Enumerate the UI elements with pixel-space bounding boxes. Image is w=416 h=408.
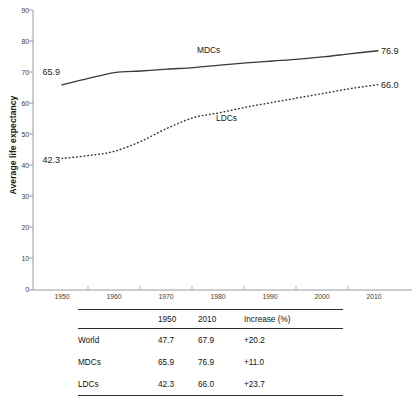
chart-plot-svg — [0, 0, 416, 305]
summary-table: 1950 2010 Increase (%) World 47.7 67.9 +… — [78, 309, 343, 396]
row-label-world: World — [78, 329, 158, 352]
header-increase: Increase (%) — [244, 310, 343, 329]
table-header-row: 1950 2010 Increase (%) — [78, 310, 343, 329]
row-world-1950: 47.7 — [158, 329, 198, 352]
row-label-mdcs: MDCs — [78, 351, 158, 373]
row-mdcs-2010: 76.9 — [198, 351, 244, 373]
row-ldcs-2010: 66.0 — [198, 373, 244, 396]
row-ldcs-increase: +23.7 — [244, 373, 343, 396]
table-row: MDCs 65.9 76.9 +11.0 — [78, 351, 343, 373]
row-label-ldcs: LDCs — [78, 373, 158, 396]
header-2010: 2010 — [198, 310, 244, 329]
row-mdcs-increase: +11.0 — [244, 351, 343, 373]
y-tick-marks — [29, 10, 33, 290]
row-world-2010: 67.9 — [198, 329, 244, 352]
series-line-mdcs — [62, 51, 378, 85]
series-line-ldcs — [62, 85, 378, 159]
header-1950: 1950 — [158, 310, 198, 329]
row-world-increase: +20.2 — [244, 329, 343, 352]
life-expectancy-chart: Average life expectancy 90 80 70 60 50 4… — [0, 0, 416, 305]
header-blank — [78, 310, 158, 329]
row-ldcs-1950: 42.3 — [158, 373, 198, 396]
table-bottom-rule — [78, 396, 343, 397]
x-tick-marks — [88, 286, 348, 290]
row-mdcs-1950: 65.9 — [158, 351, 198, 373]
table-row: World 47.7 67.9 +20.2 — [78, 329, 343, 352]
table-row: LDCs 42.3 66.0 +23.7 — [78, 373, 343, 396]
